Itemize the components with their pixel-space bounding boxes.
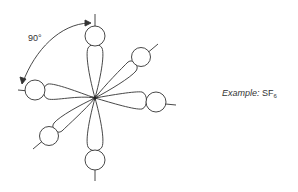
example-caption: Example: SF6 bbox=[222, 88, 277, 99]
arrowhead-bottom bbox=[20, 77, 26, 84]
arrowhead-top bbox=[85, 20, 91, 26]
example-prefix: Example: bbox=[222, 88, 260, 98]
orbital-lobe-right bbox=[95, 92, 166, 112]
octahedral-orbital-diagram bbox=[0, 0, 200, 192]
angle-arc bbox=[23, 23, 89, 82]
formula-main: SF bbox=[262, 88, 274, 98]
angle-label: 90° bbox=[28, 33, 42, 43]
central-atom-dot bbox=[94, 97, 97, 100]
orbital-lobe-left bbox=[25, 80, 95, 100]
formula-subscript: 6 bbox=[274, 93, 277, 99]
orbital-lobe-down bbox=[85, 98, 105, 170]
orbital-lobe-up bbox=[85, 26, 105, 98]
